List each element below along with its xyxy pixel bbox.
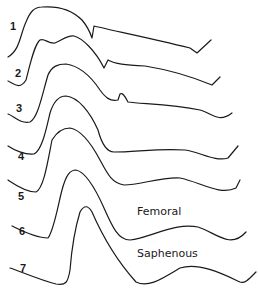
trace-1 [8, 7, 211, 57]
trace-6 [12, 170, 246, 240]
trace-2 [8, 36, 220, 86]
femoral-label: Femoral [137, 205, 181, 218]
waveform-figure [0, 0, 258, 297]
saphenous-label: Saphenous [137, 247, 198, 260]
trace-3 [8, 64, 232, 122]
trace-5-femoral [8, 128, 240, 192]
trace-4 [8, 96, 238, 159]
trace-number-3: 3 [16, 102, 22, 114]
trace-7-saphenous [10, 207, 256, 285]
trace-number-7: 7 [20, 262, 26, 274]
trace-number-1: 1 [10, 20, 16, 32]
trace-number-5: 5 [18, 190, 24, 202]
trace-number-2: 2 [15, 67, 21, 79]
trace-number-6: 6 [19, 225, 25, 237]
trace-number-4: 4 [18, 150, 24, 162]
